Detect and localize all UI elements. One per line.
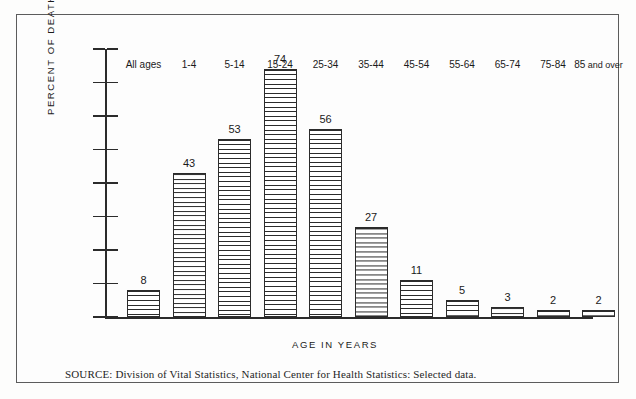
bar [127,290,160,317]
y-axis-tick [93,82,105,83]
y-axis-title: PERCENT OF DEATHS [45,0,56,115]
bar-group: 431-4 [173,49,206,317]
bar-group: 7415-24 [264,49,297,317]
bar-group: 5625-34 [309,49,342,317]
bar [173,173,206,317]
y-axis-tick [93,149,105,150]
y-axis-tick [93,182,105,183]
bar-value-label: 56 [309,113,342,125]
y-axis-tick-inner [107,182,118,183]
bar-value-label: 2 [582,294,615,306]
y-axis-tick-inner [107,48,118,49]
chart-frame: PERCENT OF DEATHS 01020304050607080 8All… [16,14,619,383]
bar [537,310,570,317]
bar [582,310,615,317]
bar-value-label: 53 [218,123,251,135]
bar [309,129,342,317]
bar-value-label: 5 [446,284,479,296]
x-axis-title: AGE IN YEARS [17,339,636,350]
y-axis-tick-inner [107,249,118,250]
bar-value-label: 2 [537,294,570,306]
y-axis-tick-inner [107,82,118,83]
y-axis-tick-inner [107,149,118,150]
figure: PERCENT OF DEATHS 01020304050607080 8All… [0,0,636,399]
bar [400,280,433,317]
y-axis-tick [93,249,105,250]
bar-value-label: 11 [400,264,433,276]
bar-value-label: 8 [127,274,160,286]
bar-value-label: 43 [173,157,206,169]
y-axis-tick [93,283,105,284]
bar-group: 2735-44 [355,49,388,317]
y-axis-tick-inner [107,216,118,217]
bar-group: 275-84 [537,49,570,317]
bar-group: 1145-54 [400,49,433,317]
y-axis-tick-inner [107,283,118,284]
y-axis-tick-inner [107,115,118,116]
y-axis-tick [93,115,105,116]
bar-group: 535-14 [218,49,251,317]
x-axis-line [105,317,593,319]
y-axis-tick [93,216,105,217]
bar-group: 285 and over [582,49,615,317]
bar-value-label: 3 [491,291,524,303]
bar-value-label: 27 [355,211,388,223]
bar [491,307,524,317]
bar-group: 8All ages [127,49,160,317]
y-axis-tick [93,316,105,317]
bar [446,300,479,317]
x-axis-category-label: 85 and over [566,59,631,70]
bar [355,227,388,317]
source-note: SOURCE: Division of Vital Statistics, Na… [65,368,476,380]
y-axis-tick [93,48,105,49]
y-axis-tick-inner [107,316,118,317]
bar-group: 555-64 [446,49,479,317]
bar [218,139,251,317]
bar [264,69,297,317]
plot-area: 01020304050607080 8All ages431-4535-1474… [105,49,593,317]
bar-group: 365-74 [491,49,524,317]
